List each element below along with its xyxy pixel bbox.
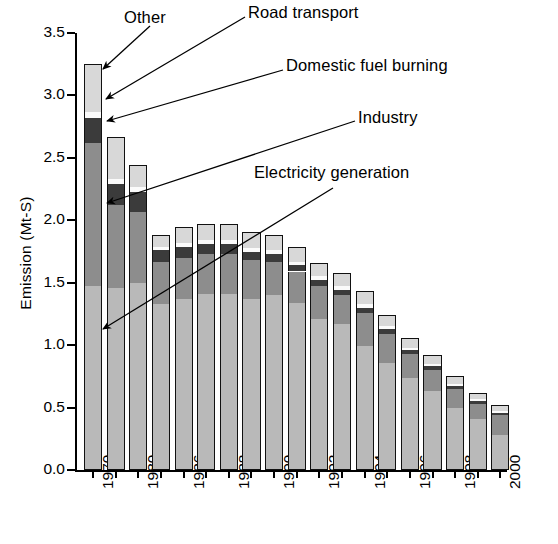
bar-1985[interactable] — [152, 235, 170, 470]
bar-segment-1993-road-transport — [333, 286, 351, 290]
bar-segment-1992-road-transport — [310, 276, 328, 280]
bar-segment-1985-road-transport — [152, 247, 170, 251]
bar-1986[interactable] — [175, 227, 193, 470]
bar-segment-2000-road-transport — [491, 411, 509, 412]
bar-1999[interactable] — [469, 393, 487, 470]
x-tick-1975 — [115, 470, 117, 478]
bar-2000[interactable] — [491, 405, 509, 470]
y-tick-label-3.5: 3.5 — [9, 24, 65, 40]
bar-segment-1997-electricity-generation — [423, 391, 441, 470]
bar-1980[interactable] — [129, 165, 147, 470]
x-tick-1987 — [205, 470, 207, 478]
annotation-electricity-generation: Electricity generation — [254, 163, 409, 182]
bar-segment-1985-electricity-generation — [152, 304, 170, 470]
y-tick-label-1.0: 1.0 — [9, 336, 65, 352]
bar-1989[interactable] — [242, 232, 260, 470]
annotation-domestic-fuel-burning: Domestic fuel burning — [286, 56, 448, 75]
bar-1975[interactable] — [107, 137, 125, 470]
bar-segment-1970-other — [84, 64, 102, 111]
x-tick-1996 — [409, 470, 411, 478]
bar-segment-1986-industry — [175, 258, 193, 299]
bar-segment-1980-other — [129, 165, 147, 186]
annotation-road-transport: Road transport — [248, 3, 359, 22]
bar-segment-1986-other — [175, 227, 193, 243]
bar-segment-1970-electricity-generation — [84, 286, 102, 470]
bar-segment-1995-domestic-fuel-burning — [378, 329, 396, 334]
x-tick-1994 — [364, 470, 366, 478]
x-tick-1991 — [296, 470, 298, 478]
bar-segment-1994-domestic-fuel-burning — [356, 308, 374, 313]
annotation-industry: Industry — [358, 108, 418, 127]
bar-segment-1970-road-transport — [84, 112, 102, 118]
x-tick-1989 — [250, 470, 252, 478]
bar-segment-1988-road-transport — [220, 240, 238, 244]
bar-segment-1996-electricity-generation — [401, 378, 419, 470]
bar-segment-1985-industry — [152, 262, 170, 304]
bar-segment-1987-industry — [197, 254, 215, 294]
bar-segment-1997-domestic-fuel-burning — [423, 366, 441, 370]
bar-segment-1986-electricity-generation — [175, 299, 193, 470]
bar-segment-2000-other — [491, 405, 509, 411]
bar-segment-1992-domestic-fuel-burning — [310, 280, 328, 286]
bar-1991[interactable] — [288, 247, 306, 470]
bar-1992[interactable] — [310, 263, 328, 470]
bar-segment-1990-domestic-fuel-burning — [265, 254, 283, 261]
bar-segment-1990-other — [265, 235, 283, 250]
bar-segment-1993-electricity-generation — [333, 324, 351, 470]
bar-segment-1975-industry — [107, 205, 125, 287]
bar-segment-1985-other — [152, 235, 170, 246]
x-tick-1988 — [228, 470, 230, 478]
bar-segment-1970-industry — [84, 143, 102, 287]
bar-1994[interactable] — [356, 291, 374, 470]
bar-1998[interactable] — [446, 376, 464, 470]
bar-1996[interactable] — [401, 338, 419, 470]
bar-segment-1993-industry — [333, 295, 351, 324]
bar-1970[interactable] — [84, 64, 102, 470]
bar-segment-1993-domestic-fuel-burning — [333, 290, 351, 295]
bar-segment-1993-other — [333, 273, 351, 287]
bar-1993[interactable] — [333, 273, 351, 470]
y-tick-1.5 — [67, 282, 75, 284]
bar-segment-1999-domestic-fuel-burning — [469, 401, 487, 403]
bar-segment-1996-domestic-fuel-burning — [401, 350, 419, 354]
bar-segment-1990-industry — [265, 262, 283, 296]
bar-segment-1999-road-transport — [469, 399, 487, 401]
bar-1997[interactable] — [423, 355, 441, 470]
bar-segment-1989-electricity-generation — [242, 299, 260, 470]
bar-segment-1980-domestic-fuel-burning — [129, 192, 147, 212]
x-tick-1990 — [273, 470, 275, 478]
bar-segment-1998-domestic-fuel-burning — [446, 386, 464, 388]
y-axis-title: Emission (Mt-S) — [17, 143, 35, 363]
x-tick-1980 — [137, 470, 139, 478]
bar-segment-1995-other — [378, 315, 396, 326]
bar-1995[interactable] — [378, 315, 396, 470]
bar-segment-1991-other — [288, 247, 306, 262]
bar-segment-1995-electricity-generation — [378, 363, 396, 470]
bar-1987[interactable] — [197, 224, 215, 470]
bar-segment-1988-other — [220, 224, 238, 240]
bar-segment-1992-industry — [310, 286, 328, 318]
bar-1988[interactable] — [220, 224, 238, 470]
bar-segment-1997-other — [423, 355, 441, 364]
bar-segment-1998-road-transport — [446, 384, 464, 386]
bar-segment-1980-industry — [129, 212, 147, 283]
x-tick-1998 — [454, 470, 456, 478]
bar-segment-1980-electricity-generation — [129, 283, 147, 470]
bar-segment-1991-domestic-fuel-burning — [288, 265, 306, 271]
bar-segment-1996-industry — [401, 354, 419, 378]
bar-segment-1989-other — [242, 232, 260, 248]
bar-segment-1999-industry — [469, 404, 487, 419]
bar-1990[interactable] — [265, 235, 283, 470]
bar-segment-1989-domestic-fuel-burning — [242, 252, 260, 261]
bar-segment-1991-industry — [288, 272, 306, 303]
bar-segment-1975-road-transport — [107, 179, 125, 184]
x-tick-2000 — [499, 470, 501, 478]
bar-segment-1992-electricity-generation — [310, 319, 328, 470]
bar-segment-1999-other — [469, 393, 487, 399]
bar-segment-1987-domestic-fuel-burning — [197, 244, 215, 254]
bar-segment-1994-industry — [356, 313, 374, 347]
bar-segment-1987-road-transport — [197, 240, 215, 244]
bar-segment-1988-industry — [220, 254, 238, 294]
bar-segment-1994-other — [356, 291, 374, 303]
bar-segment-1975-domestic-fuel-burning — [107, 184, 125, 205]
